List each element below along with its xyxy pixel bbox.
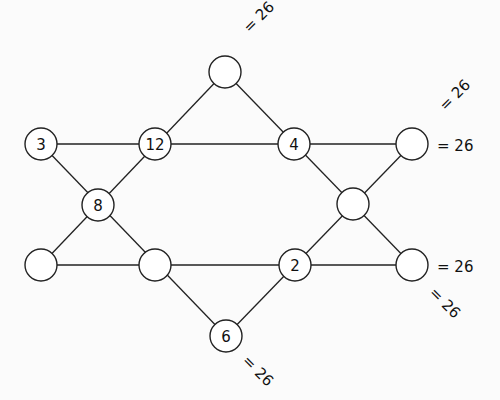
node-value: 12 xyxy=(145,136,164,154)
node-right_mid[interactable] xyxy=(337,188,369,220)
node-value: 8 xyxy=(93,197,103,215)
node-circle[interactable] xyxy=(139,249,171,281)
node-n3[interactable]: 3 xyxy=(25,128,57,160)
edge xyxy=(41,144,226,336)
node-circle[interactable] xyxy=(25,249,57,281)
line-sum-label: = 26 xyxy=(436,76,474,114)
node-value: 2 xyxy=(290,257,300,275)
node-circle[interactable] xyxy=(396,249,428,281)
node-circle[interactable] xyxy=(337,188,369,220)
line-sum-label: = 26 xyxy=(437,258,473,276)
node-circle[interactable] xyxy=(396,128,428,160)
node-n4[interactable]: 4 xyxy=(278,128,310,160)
line-sum-label: = 26 xyxy=(239,352,277,390)
node-right_bot[interactable] xyxy=(396,249,428,281)
line-sum-label: = 26 xyxy=(240,0,278,36)
node-value: 3 xyxy=(36,136,46,154)
node-circle[interactable] xyxy=(209,56,241,88)
node-n8[interactable]: 8 xyxy=(82,189,114,221)
line-sum-label: = 26 xyxy=(426,284,464,322)
node-mid_bot[interactable] xyxy=(139,249,171,281)
edge xyxy=(41,72,225,265)
node-left_bot[interactable] xyxy=(25,249,57,281)
nodes: 3124826 xyxy=(25,56,428,352)
node-right_top[interactable] xyxy=(396,128,428,160)
node-top[interactable] xyxy=(209,56,241,88)
edge xyxy=(225,72,412,265)
edge xyxy=(226,144,412,336)
line-sum-label: = 26 xyxy=(437,137,473,155)
node-n12[interactable]: 12 xyxy=(139,128,171,160)
node-n2[interactable]: 2 xyxy=(279,249,311,281)
node-value: 4 xyxy=(289,136,299,154)
node-value: 6 xyxy=(221,328,231,346)
node-n6[interactable]: 6 xyxy=(210,320,242,352)
star-puzzle-diagram: 3124826 = 26= 26= 26= 26= 26= 26 xyxy=(0,0,500,400)
